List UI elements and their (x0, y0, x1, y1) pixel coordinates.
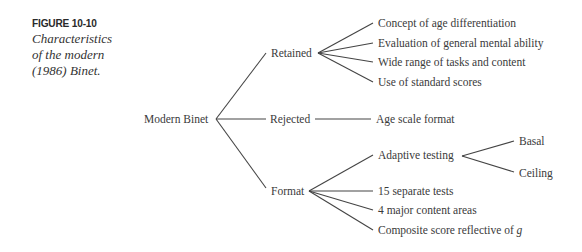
leaf-retained-4: Use of standard scores (378, 75, 482, 89)
leaf-format-4-italic-g: g (517, 224, 523, 236)
connector-format-3 (309, 191, 373, 210)
leaf-format-4-prefix: Composite score reflective of (378, 224, 517, 236)
leaf-basal: Basal (519, 134, 545, 148)
node-retained: Retained (271, 46, 312, 60)
leaf-format-3: 4 major content areas (378, 203, 477, 217)
node-format: Format (271, 184, 304, 198)
connector-format-4 (309, 191, 373, 230)
leaf-rejected-1: Age scale format (376, 112, 455, 126)
leaf-ceiling: Ceiling (519, 166, 553, 180)
leaf-retained-3: Wide range of tasks and content (378, 55, 525, 69)
connector-format-1 (309, 155, 373, 191)
node-adaptive-testing: Adaptive testing (378, 148, 454, 162)
leaf-retained-2: Evaluation of general mental ability (378, 36, 543, 50)
connector-root-format (216, 119, 266, 188)
leaf-format-4: Composite score reflective of g (378, 223, 522, 237)
connector-adaptive-basal (462, 141, 514, 156)
leaf-retained-1: Concept of age differentiation (378, 16, 516, 30)
connector-adaptive-ceiling (462, 156, 514, 172)
leaf-format-2: 15 separate tests (378, 184, 453, 198)
connector-root-retained (216, 53, 266, 119)
node-root: Modern Binet (144, 112, 208, 126)
node-rejected: Rejected (270, 112, 310, 126)
